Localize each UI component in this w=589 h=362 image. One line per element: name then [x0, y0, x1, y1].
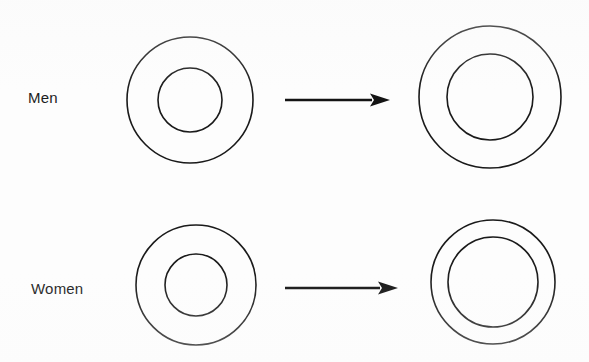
women-before-rings: [136, 225, 256, 345]
men-after-outer-circle: [419, 26, 561, 168]
men-after-rings: [419, 26, 561, 168]
women-before-outer-circle: [136, 225, 256, 345]
men-before-inner-circle: [158, 68, 222, 132]
men-before-rings: [127, 37, 253, 163]
women-arrow-head: [378, 282, 398, 295]
row-men: [127, 26, 561, 168]
men-after-inner-circle: [447, 54, 533, 140]
men-arrow: [285, 94, 390, 107]
women-after-outer-circle: [431, 220, 555, 344]
women-arrow: [285, 282, 398, 295]
row-label-men: Men: [28, 90, 58, 105]
men-arrow-head: [370, 94, 390, 107]
row-label-women: Women: [31, 281, 83, 296]
women-after-inner-circle: [448, 237, 538, 327]
row-women: [136, 220, 555, 345]
men-before-outer-circle: [127, 37, 253, 163]
women-after-rings: [431, 220, 555, 344]
women-before-inner-circle: [165, 254, 227, 316]
figure-canvas: [0, 0, 589, 362]
